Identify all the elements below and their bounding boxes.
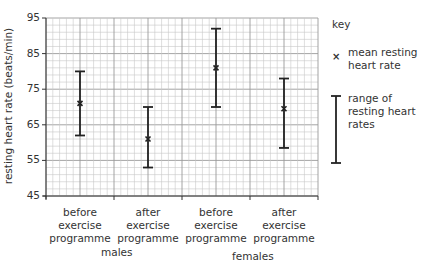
legend-range-icon [331, 96, 341, 163]
y-tick-95: 95 [16, 11, 40, 23]
x-label-line: after [244, 206, 324, 219]
x-label-line: exercise [244, 219, 324, 232]
x-label-line: programme [244, 232, 324, 245]
y-tick-65: 65 [16, 118, 40, 130]
y-tick-75: 75 [16, 82, 40, 94]
grid [46, 18, 318, 196]
legend-mean-label: mean resting heart rate [348, 46, 422, 72]
y-tick-55: 55 [16, 153, 40, 165]
error-bar [143, 107, 153, 168]
mean-marker-icon: × [332, 50, 340, 63]
group-label-males: males [101, 246, 133, 258]
group-label-females: females [232, 250, 274, 262]
legend-range-label: range of resting heart rates [348, 92, 422, 131]
y-tick-45: 45 [16, 189, 40, 201]
y-axis-label: resting heart rate (beats/min) [2, 26, 14, 186]
legend-title: key [332, 18, 350, 31]
axes [42, 18, 318, 200]
x-label-females-after: after exercise programme [244, 206, 324, 245]
y-tick-85: 85 [16, 47, 40, 59]
